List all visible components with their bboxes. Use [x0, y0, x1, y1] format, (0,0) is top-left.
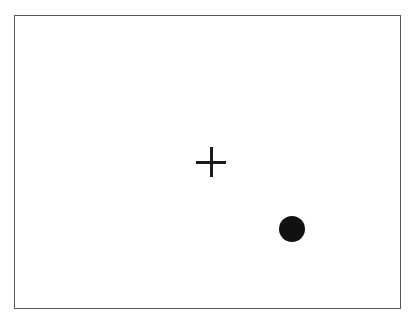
fixation-cross-icon	[196, 147, 226, 177]
target-dot-icon	[279, 216, 305, 242]
fixation-cross-vertical-bar	[210, 147, 213, 177]
